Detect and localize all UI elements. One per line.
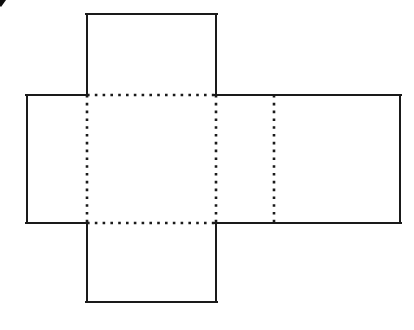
- face-center-face: [87, 95, 216, 223]
- figure-canvas: [0, 0, 414, 330]
- face-bottom-flap: [87, 223, 216, 302]
- cube-net-diagram: [0, 0, 414, 330]
- face-right-face: [216, 95, 400, 223]
- face-top-flap: [87, 14, 216, 95]
- face-left-face: [27, 95, 87, 223]
